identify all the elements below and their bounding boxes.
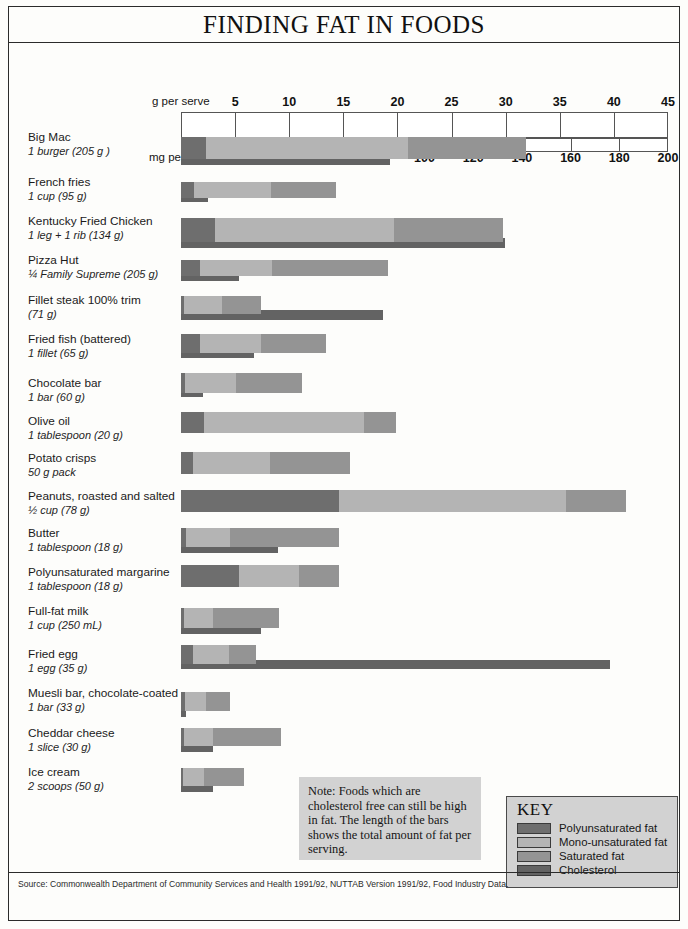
polyunsaturated-segment [181,182,194,198]
mono-unsaturated-segment [184,608,213,628]
food-name: Butter [28,526,59,540]
saturated-segment [566,490,626,512]
food-serve: ½ cup (78 g) [28,504,175,518]
polyunsaturated-segment [181,645,193,664]
food-label: Chocolate bar1 bar (60 g) [28,377,101,404]
food-label: Muesli bar, chocolate-coated1 bar (33 g) [28,687,178,714]
mono-unsaturated-segment [215,218,395,242]
polyunsaturated-segment [181,334,200,353]
saturated-segment [394,218,503,242]
legend-label: Cholesterol [559,864,617,876]
food-name: Fried egg [28,647,78,661]
food-serve: 1 burger (205 g ) [28,145,110,159]
saturated-segment [272,260,388,276]
food-label: Peanuts, roasted and salted½ cup (78 g) [28,490,175,517]
polyunsaturated-segment [181,137,206,159]
food-label: Cheddar cheese1 slice (30 g) [28,727,115,754]
legend-title: KEY [517,800,677,820]
food-serve: 1 tablespoon (20 g) [28,429,123,443]
mono-unsaturated-segment [194,182,271,198]
mono-unsaturated-segment [200,334,261,353]
note-box: Note: Foods which are cholesterol free c… [299,777,481,860]
mono-unsaturated-segment [193,645,229,664]
food-serve: 1 tablespoon (18 g) [28,541,123,555]
food-serve: 2 scoops (50 g) [28,780,104,794]
saturated-segment [261,334,326,353]
source-text: Source: Commonwealth Department of Commu… [18,879,508,889]
mono-unsaturated-segment [239,565,299,587]
polyunsaturated-segment [181,412,204,433]
food-serve: ¼ Family Supreme (205 g) [28,268,158,282]
poster-page: FINDING FAT IN FOODS g per serve mg per … [0,0,688,929]
food-name: Kentucky Fried Chicken [28,214,153,228]
polyunsaturated-segment [181,490,339,512]
saturated-segment [364,412,396,433]
mono-unsaturated-segment [184,728,213,746]
food-name: Olive oil [28,414,70,428]
polyunsaturated-segment [181,260,200,276]
legend-item: Polyunsaturated fat [517,822,677,834]
food-label: Big Mac1 burger (205 g ) [28,131,110,158]
legend-item: Saturated fat [517,850,677,862]
saturated-segment [299,565,339,587]
food-serve: 1 slice (30 g) [28,741,115,755]
saturated-segment [270,452,350,474]
food-serve: 1 leg + 1 rib (134 g) [28,229,153,243]
saturated-segment [213,608,279,628]
source-divider [9,872,679,873]
food-serve: 1 fillet (65 g) [28,347,131,361]
saturated-segment [206,692,230,711]
mono-unsaturated-segment [193,452,270,474]
saturated-segment [222,296,261,314]
food-label: Full-fat milk1 cup (250 mL) [28,605,102,632]
food-name: Polyunsaturated margarine [28,565,170,579]
food-label: Kentucky Fried Chicken1 leg + 1 rib (134… [28,215,153,242]
legend-box: KEY Polyunsaturated fatMono-unsaturated … [506,796,678,888]
mono-unsaturated-segment [339,490,566,512]
food-label: Olive oil1 tablespoon (20 g) [28,415,123,442]
food-name: Chocolate bar [28,376,101,390]
note-text: Note: Foods which are cholesterol free c… [308,784,471,856]
food-name: Potato crisps [28,451,96,465]
mono-unsaturated-segment [185,692,206,711]
saturated-segment [204,768,244,786]
food-name: French fries [28,175,90,189]
legend-item: Cholesterol [517,864,677,876]
polyunsaturated-segment [181,218,215,242]
mono-unsaturated-segment [200,260,271,276]
food-label: French fries1 cup (95 g) [28,176,90,203]
saturated-segment [236,373,302,393]
food-name: Fillet steak 100% trim [28,293,141,307]
food-label: Fried fish (battered)1 fillet (65 g) [28,333,131,360]
legend-label: Polyunsaturated fat [559,822,657,834]
food-serve: 1 tablespoon (18 g) [28,580,170,594]
food-name: Muesli bar, chocolate-coated [28,686,178,700]
polyunsaturated-segment [181,452,193,474]
mono-unsaturated-segment [184,296,222,314]
saturated-segment [213,728,280,746]
food-label: Pizza Hut¼ Family Supreme (205 g) [28,254,158,281]
legend-label: Mono-unsaturated fat [559,836,667,848]
saturated-segment [230,528,339,547]
saturated-segment [229,645,256,664]
food-serve: 1 egg (35 g) [28,662,87,676]
legend-swatch [517,823,551,834]
food-name: Ice cream [28,765,80,779]
polyunsaturated-segment [181,565,239,587]
food-serve: 1 bar (33 g) [28,701,178,715]
food-name: Big Mac [28,130,71,144]
food-serve: 1 cup (250 mL) [28,619,102,633]
mono-unsaturated-segment [185,373,236,393]
legend-swatch [517,851,551,862]
legend-label: Saturated fat [559,850,624,862]
food-label: Butter1 tablespoon (18 g) [28,527,123,554]
saturated-segment [271,182,336,198]
legend-swatch [517,837,551,848]
legend-swatch [517,865,551,876]
mono-unsaturated-segment [204,412,364,433]
mono-unsaturated-segment [183,768,204,786]
food-name: Peanuts, roasted and salted [28,489,175,503]
food-label: Fillet steak 100% trim(71 g) [28,294,141,321]
food-serve: 1 bar (60 g) [28,391,101,405]
food-label: Ice cream2 scoops (50 g) [28,766,104,793]
